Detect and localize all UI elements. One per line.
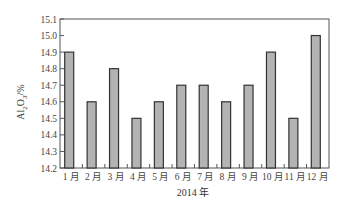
bar (222, 102, 231, 168)
x-tick-label: 12 月 (307, 172, 329, 182)
y-tick-label: 15.0 (40, 31, 57, 41)
x-tick-label: 7 月 (197, 172, 214, 182)
x-tick-label: 3 月 (107, 172, 124, 182)
x-tick-label: 6 月 (175, 172, 192, 182)
y-tick-label: 14.9 (40, 48, 57, 58)
x-tick-label: 9 月 (242, 172, 259, 182)
y-axis-title: Al2O3/% (15, 84, 29, 119)
x-tick-label: 11 月 (285, 172, 307, 182)
bar (87, 102, 96, 168)
y-tick-label: 14.5 (40, 114, 57, 124)
y-tick-label: 15.1 (40, 15, 57, 25)
x-axis-title: 2014 年 (177, 186, 210, 198)
x-tick-label: 2 月 (85, 172, 102, 182)
bar (199, 85, 208, 168)
y-tick-label: 14.2 (40, 164, 57, 174)
bar (289, 118, 298, 168)
x-tick-label: 5 月 (152, 172, 169, 182)
y-tick-label: 14.4 (40, 130, 57, 140)
x-tick-label: 1 月 (63, 172, 80, 182)
x-tick-label: 10 月 (262, 172, 284, 182)
bar (311, 36, 320, 168)
x-tick-label: 8 月 (220, 172, 237, 182)
y-tick-label: 14.3 (40, 147, 57, 157)
y-tick-label: 14.6 (40, 97, 57, 107)
bar (244, 85, 253, 168)
y-tick-label: 14.7 (40, 81, 57, 91)
bar (266, 52, 275, 168)
bar (177, 85, 186, 168)
bar (154, 102, 163, 168)
bar-chart: 14.214.314.414.514.614.714.814.915.015.1… (0, 0, 349, 210)
bars (65, 36, 321, 168)
y-tick-label: 14.8 (40, 64, 57, 74)
bar (110, 69, 119, 168)
x-tick-label: 4 月 (130, 172, 147, 182)
bar (65, 52, 74, 168)
bar (132, 118, 141, 168)
